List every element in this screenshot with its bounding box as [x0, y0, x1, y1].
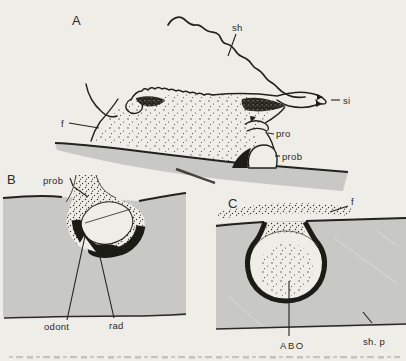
panel-b-letter: B	[7, 172, 16, 187]
panel-a-letter: A	[72, 13, 81, 28]
label-abo: ABO	[280, 340, 305, 351]
label-pro: pro	[276, 128, 291, 139]
label-prob-a: prob	[282, 151, 302, 162]
label-rad: rad	[109, 320, 124, 331]
cropped-caption-fragment	[8, 356, 400, 360]
label-f-a: f	[61, 118, 64, 129]
label-prob-b: prob	[43, 175, 63, 186]
label-odont: odont	[44, 321, 69, 332]
panel-c-letter: C	[228, 196, 238, 211]
label-f-c: f	[351, 196, 354, 207]
abo-body-stipple	[259, 242, 313, 296]
label-si: si	[343, 95, 350, 106]
label-sh-p: sh. p	[363, 336, 385, 347]
label-sh: sh	[232, 22, 243, 33]
figure-scan: A sh si f pro prob B prob	[0, 0, 406, 361]
figure-svg: A sh si f pro prob B prob	[0, 0, 406, 361]
